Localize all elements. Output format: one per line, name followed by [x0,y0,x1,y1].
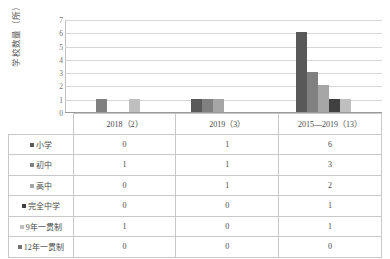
table-body: 小学016初中113高中012完全中学0019年一贯制10112年一贯制000 [9,134,382,257]
y-tick-7: 7 [43,16,63,25]
legend-label-text: 高中 [36,182,52,191]
table-cell: 6 [279,134,382,155]
table-row: 12年一贯制000 [9,237,382,258]
bar-初中-2015—2019（13） [307,72,318,112]
table-cell: 3 [279,155,382,176]
gridline-5 [65,47,382,48]
legend-label-text: 9年一贯制 [26,223,62,232]
gridline-6 [65,33,382,34]
table-cell: 0 [176,196,279,217]
bar-初中-2019（3） [202,99,213,112]
legend-label-cell: 9年一贯制 [9,216,74,237]
legend-label-text: 12年一贯制 [24,243,64,252]
legend-swatch-icon [30,143,34,147]
table-row: 高中012 [9,175,382,196]
table-row: 9年一贯制101 [9,216,382,237]
table-row: 小学016 [9,134,382,155]
legend-swatch-icon [20,225,24,229]
legend-label-cell: 高中 [9,175,74,196]
table-cell: 1 [176,134,279,155]
bar-初中-2018（2） [96,99,107,112]
gridline-3 [65,73,382,74]
table-cell: 0 [176,237,279,258]
bar-9年一贯制-2018（2） [129,99,140,112]
legend-swatch-icon [22,204,26,208]
legend-label-text: 小学 [36,141,52,150]
legend-swatch-icon [18,245,22,249]
bar-高中-2019（3） [213,99,224,112]
table-row: 完全中学001 [9,196,382,217]
y-tick-4: 4 [43,55,63,64]
bar-小学-2019（3） [191,99,202,112]
table-cell: 0 [73,175,176,196]
table-column-header: 2019（3） [176,114,279,135]
gridline-2 [65,86,382,87]
table-cell: 0 [73,237,176,258]
legend-swatch-icon [30,163,34,167]
table-row: 初中113 [9,155,382,176]
legend-label-cell: 12年一贯制 [9,237,74,258]
y-tick-5: 5 [43,42,63,51]
gridline-4 [65,60,382,61]
y-tick-2: 2 [43,82,63,91]
y-tick-1: 1 [43,95,63,104]
gridline-7 [65,20,382,21]
bar-小学-2015—2019（13） [296,32,307,112]
table-cell: 1 [73,216,176,237]
table-cell: 0 [73,134,176,155]
table-cell: 0 [176,216,279,237]
y-tick-3: 3 [43,69,63,78]
legend-swatch-icon [30,184,34,188]
table-cell: 0 [279,237,382,258]
bar-完全中学-2015—2019（13） [329,99,340,112]
legend-label-text: 初中 [36,161,52,170]
chart-page: 学校数量（所） 01234567 2018（2） 2019（3） 2015—20… [0,0,390,259]
table-header-row: 2018（2） 2019（3） 2015—2019（13） [9,114,382,135]
table-cell: 1 [279,216,382,237]
legend-label-text: 完全中学 [28,202,60,211]
table-corner-cell [9,114,74,135]
table-cell: 2 [279,175,382,196]
data-table: 2018（2） 2019（3） 2015—2019（13） 小学016初中113… [8,113,382,258]
y-axis-tick-labels: 01234567 [41,20,63,113]
table-column-header: 2018（2） [73,114,176,135]
table-cell: 0 [73,196,176,217]
table-column-header: 2015—2019（13） [279,114,382,135]
y-axis-title: 学校数量（所） [9,0,21,73]
legend-label-cell: 初中 [9,155,74,176]
table-cell: 1 [279,196,382,217]
bar-chart: 学校数量（所） 01234567 [0,0,390,122]
table-cell: 1 [176,155,279,176]
legend-label-cell: 完全中学 [9,196,74,217]
plot-area [65,20,382,113]
bar-9年一贯制-2015—2019（13） [340,99,351,112]
table-cell: 1 [176,175,279,196]
legend-label-cell: 小学 [9,134,74,155]
y-tick-6: 6 [43,29,63,38]
bar-高中-2015—2019（13） [318,85,329,112]
table-cell: 1 [73,155,176,176]
